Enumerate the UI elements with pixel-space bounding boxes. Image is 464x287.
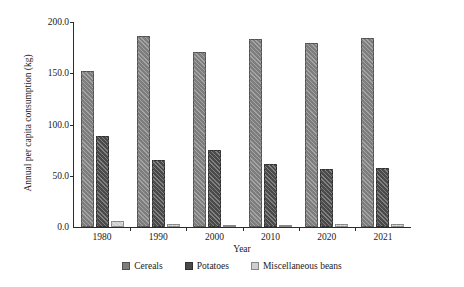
bar-group-2020: 2020: [299, 22, 355, 227]
bar-beans-2020[interactable]: [335, 224, 348, 227]
legend-item-potatoes[interactable]: Potatoes: [185, 261, 229, 271]
bar-group-2000: 2000: [186, 22, 242, 227]
bar-beans-1980[interactable]: [111, 221, 124, 227]
legend-label-cereals: Cereals: [134, 261, 163, 271]
x-tick-label-2021: 2021: [355, 232, 411, 242]
y-axis-title: Annual per capita consumption (kg): [23, 23, 33, 223]
bar-beans-2021[interactable]: [391, 224, 404, 227]
bars-1980: [74, 22, 130, 227]
bar-potatoes-2010[interactable]: [264, 164, 277, 227]
bar-beans-1990[interactable]: [167, 224, 180, 227]
bars-2010: [243, 22, 299, 227]
legend-swatch-beans-icon: [251, 262, 259, 270]
x-tick-mark-1: [130, 227, 131, 231]
legend-label-potatoes: Potatoes: [197, 261, 229, 271]
legend-swatch-cereals-icon: [122, 262, 130, 270]
bar-cereals-1990[interactable]: [137, 36, 150, 227]
bar-potatoes-1980[interactable]: [96, 136, 109, 227]
x-tick-label-2010: 2010: [243, 232, 299, 242]
bars-2000: [186, 22, 242, 227]
bar-cereals-1980[interactable]: [81, 71, 94, 227]
y-tick-label-200: 200.0: [48, 17, 69, 27]
bar-beans-2010[interactable]: [279, 225, 292, 227]
bar-cereals-2010[interactable]: [249, 39, 262, 227]
bar-group-1990: 1990: [130, 22, 186, 227]
bars-2020: [299, 22, 355, 227]
bar-potatoes-2021[interactable]: [376, 168, 389, 227]
bars-1990: [130, 22, 186, 227]
y-tick-label-0: 0.0: [57, 222, 69, 232]
x-tick-label-1990: 1990: [130, 232, 186, 242]
bar-group-2021: 2021: [355, 22, 411, 227]
legend-swatch-potatoes-icon: [185, 262, 193, 270]
bar-group-1980: 1980: [74, 22, 130, 227]
x-tick-label-2020: 2020: [299, 232, 355, 242]
x-tick-mark-3: [243, 227, 244, 231]
bar-cereals-2021[interactable]: [361, 38, 374, 227]
y-tick-label-150: 150.0: [48, 68, 69, 78]
x-tick-label-2000: 2000: [186, 232, 242, 242]
chart-legend: CerealsPotatoesMiscellaneous beans: [0, 261, 464, 271]
legend-item-cereals[interactable]: Cereals: [122, 261, 163, 271]
x-tick-label-1980: 1980: [74, 232, 130, 242]
bar-cereals-2020[interactable]: [305, 43, 318, 228]
bar-group-2010: 2010: [243, 22, 299, 227]
bar-potatoes-2020[interactable]: [320, 169, 333, 227]
y-tick-label-100: 100.0: [48, 120, 69, 130]
x-tick-mark-4: [299, 227, 300, 231]
y-tick-label-50: 50.0: [52, 171, 69, 181]
plot-area: 200.0 150.0 100.0 50.0 0.0 1980199020002…: [73, 22, 411, 228]
bar-potatoes-2000[interactable]: [208, 150, 221, 227]
bars-2021: [355, 22, 411, 227]
x-axis-title: Year: [73, 244, 411, 254]
legend-label-beans: Miscellaneous beans: [263, 261, 342, 271]
x-tick-mark-5: [355, 227, 356, 231]
bar-beans-2000[interactable]: [223, 225, 236, 227]
bar-chart: Annual per capita consumption (kg) 200.0…: [0, 0, 464, 287]
bar-cereals-2000[interactable]: [193, 52, 206, 227]
bar-potatoes-1990[interactable]: [152, 160, 165, 227]
x-tick-mark-2: [186, 227, 187, 231]
legend-item-beans[interactable]: Miscellaneous beans: [251, 261, 342, 271]
